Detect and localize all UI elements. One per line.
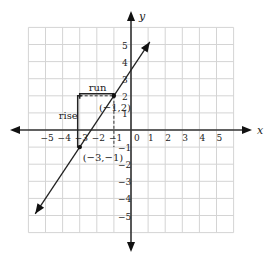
x-tick-label: 0 bbox=[134, 133, 140, 143]
x-axis-right-arrow bbox=[242, 126, 252, 134]
x-tick-label: −4 bbox=[58, 133, 72, 143]
x-tick-label: 1 bbox=[148, 133, 154, 143]
x-tick-label: 3 bbox=[182, 133, 188, 143]
y-tick-label: −4 bbox=[118, 194, 132, 204]
y-axis-up-arrow bbox=[127, 11, 135, 21]
run-label: run bbox=[89, 82, 107, 93]
point-marker bbox=[78, 145, 82, 149]
rise-label: rise bbox=[59, 110, 78, 121]
y-axis-label: y bbox=[138, 10, 146, 23]
x-axis-left-arrow bbox=[10, 126, 20, 134]
y-tick-label: −3 bbox=[118, 177, 132, 187]
y-axis-down-arrow bbox=[127, 242, 135, 252]
coordinate-plane: xy−5−4−3−2−101234554321−1−2−3−4−5runrise… bbox=[0, 0, 267, 256]
y-tick-label: −5 bbox=[118, 212, 132, 222]
line-arrow-down bbox=[35, 203, 44, 214]
y-tick-label: 5 bbox=[122, 41, 128, 51]
point-marker bbox=[112, 94, 116, 98]
x-tick-label: 4 bbox=[199, 133, 205, 143]
point-label: (−3,−1) bbox=[83, 152, 124, 163]
x-tick-label: −2 bbox=[92, 133, 105, 143]
graphed-line bbox=[35, 42, 150, 214]
x-tick-label: 2 bbox=[165, 133, 171, 143]
x-tick-label: 5 bbox=[217, 133, 223, 143]
x-tick-label: −1 bbox=[109, 133, 122, 143]
x-tick-label: −5 bbox=[41, 133, 55, 143]
y-tick-label: 4 bbox=[122, 58, 128, 68]
x-axis-label: x bbox=[257, 124, 264, 137]
point-label: (−1,2) bbox=[99, 102, 131, 113]
y-tick-label: 2 bbox=[122, 92, 128, 102]
